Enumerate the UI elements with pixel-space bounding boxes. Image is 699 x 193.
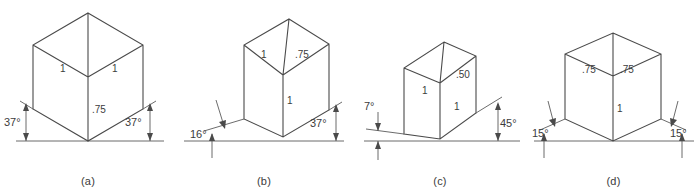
arrow-up-left-a [23,103,29,111]
angle-label-left-a: 37° [4,116,21,128]
edge-label-vertical-d: 1 [617,103,623,114]
arrow-down-right-c [495,133,501,141]
figure-panel-b: 16° 37° 1 .75 1 (b) [176,0,352,193]
arrow-up-right-a [147,103,153,111]
angle-label-right-a: 37° [125,116,142,128]
edge-label-top-right-a: 1 [112,63,118,74]
figure-panel-a: 37° 37° 1 1 .75 (a) [0,0,176,193]
edge-label-vertical-a: .75 [92,104,106,115]
angle-extension-left-c [366,129,404,134]
arrow-up-base-b [209,133,215,141]
edge-label-vertical-b: 1 [287,95,293,106]
arrow-down-right-b [333,133,339,141]
angle-label-left-d: 15° [532,127,549,139]
arrow-down-right-a [147,133,153,141]
figure-panel-c: 7° 45° 1 .50 1 (c) [352,0,528,193]
edge-label-top-right-c: .50 [456,69,470,80]
edge-label-vertical-c: 1 [454,101,460,112]
angle-label-right-d: 15° [670,127,687,139]
angle-label-left-b: 16° [190,128,207,140]
figure-a-drawing: 37° 37° 1 1 .75 [0,0,176,170]
edge-label-top-left-d: .75 [582,64,596,75]
edge-label-top-left-b: 1 [261,49,267,60]
edge-label-top-left-c: 1 [422,85,428,96]
angle-label-right-c: 45° [500,117,517,129]
arrow-up-base-c [375,141,381,149]
figure-caption-c: (c) [352,175,528,187]
arrow-up-right-b [333,104,339,112]
arrow-down-left-a [23,133,29,141]
angle-label-left-c: 7° [364,100,375,112]
arrow-down-left-c [375,123,381,131]
figure-b-drawing: 16° 37° 1 .75 1 [176,0,352,170]
axonometric-projection-plate: 37° 37° 1 1 .75 (a) [0,0,699,193]
edge-label-top-right-d: .75 [620,64,634,75]
figure-c-drawing: 7° 45° 1 .50 1 [352,0,528,170]
figure-caption-d: (d) [528,175,699,187]
figure-d-drawing: 15° 15° .75 .75 1 [528,0,699,170]
angle-label-right-b: 37° [310,117,327,129]
arrow-up-right-c [495,102,501,110]
edge-label-top-left-a: 1 [60,63,66,74]
figure-caption-b: (b) [176,175,352,187]
figure-panel-d: 15° 15° .75 .75 1 (d) [528,0,699,193]
arrow-left-b [219,120,226,129]
figure-caption-a: (a) [0,175,176,187]
edge-label-top-right-b: .75 [295,49,309,60]
